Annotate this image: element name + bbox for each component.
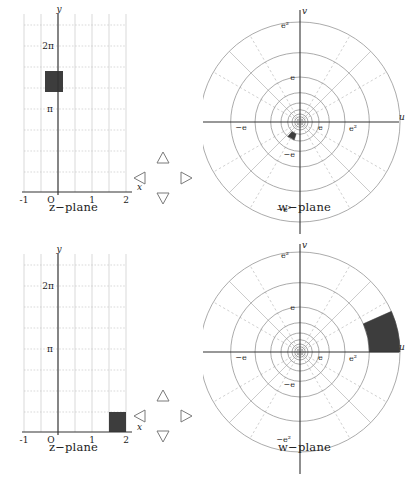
radial-label-e-neg-u: −e: [235, 353, 247, 362]
u-axis-label: u: [399, 112, 405, 122]
right-triangle-icon: [181, 172, 192, 184]
figure-row-bottom: y x -1 O 1 2 π 2π z−plane: [0, 240, 406, 480]
panel-top-w-plane: u v e² e −e e² e −e −e² w−plane: [203, 0, 406, 240]
up-triangle-icon: [157, 390, 169, 401]
radial-label-e-neg-v: −e: [284, 150, 296, 159]
y-tick-label-pi: π: [47, 104, 53, 114]
radial-label-e-neg-u: −e: [235, 123, 247, 132]
v-axis-label: v: [302, 240, 307, 250]
up-triangle-icon: [157, 152, 169, 163]
radial-label-e-pos-v: e: [290, 73, 295, 82]
panel-bottom-z-plane: y x -1 O 1 2 π 2π z−plane: [0, 240, 203, 480]
complex-mapping-figure: y x -1 O 1 2 π 2π z−plane: [0, 0, 406, 481]
grid-vertical: [24, 254, 126, 432]
y-tick-label-2pi: 2π: [42, 281, 54, 291]
y-axis-label: y: [55, 4, 62, 14]
y-tick-label-pi: π: [47, 344, 53, 354]
figure-row-top: y x -1 O 1 2 π 2π z−plane: [0, 0, 406, 240]
arrow-cluster-top: [131, 150, 195, 206]
right-triangle-icon: [181, 410, 192, 422]
y-tick-label-2pi: 2π: [42, 41, 54, 51]
arrow-cluster-bottom: [131, 388, 195, 444]
left-triangle-icon: [134, 172, 145, 184]
caption-top-w-plane: w−plane: [203, 200, 406, 214]
down-triangle-icon: [157, 193, 169, 204]
panel-bottom-w-plane: u v e² e −e e² e −e −e² w−plane: [203, 240, 406, 480]
shaded-region-rectangle: [109, 412, 126, 432]
radial-label-e-neg-v: −e: [284, 380, 296, 389]
radial-label-e-pos-u: e: [318, 123, 323, 132]
y-axis-label: y: [55, 244, 62, 254]
radial-label-e-pos-v: e: [290, 303, 295, 312]
radial-label-e2-pos-v: e²: [281, 21, 289, 30]
left-triangle-icon: [134, 410, 145, 422]
radial-label-e2-pos-u: e²: [349, 124, 357, 133]
shaded-region-rectangle: [45, 71, 63, 92]
radial-label-e-pos-u: e: [318, 353, 323, 362]
u-axis-label: u: [399, 342, 405, 352]
down-triangle-icon: [157, 431, 169, 442]
radial-label-e2-pos-u: e²: [349, 354, 357, 363]
grid-vertical: [24, 14, 126, 192]
shaded-region-annular-sector: [363, 311, 400, 352]
caption-bottom-w-plane: w−plane: [203, 440, 406, 454]
radial-label-e2-pos-v: e²: [281, 251, 289, 260]
v-axis-label: v: [302, 6, 307, 16]
